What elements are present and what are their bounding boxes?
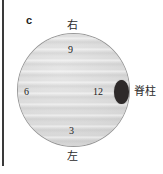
orientation-label-top: 右: [67, 20, 78, 31]
clock-number-left: 6: [24, 87, 29, 97]
clock-number-top: 9: [68, 45, 73, 55]
figure-panel: c 右 左 脊柱 9 6 12 3: [0, 0, 163, 174]
spine-label: 脊柱: [134, 86, 156, 97]
clock-number-bottom: 3: [69, 126, 74, 136]
clock-number-right: 12: [93, 87, 103, 97]
left-border-rule: [2, 0, 4, 166]
panel-letter: c: [26, 15, 32, 26]
spine-marker-ellipse: [114, 80, 129, 104]
orientation-label-bottom: 左: [67, 151, 78, 162]
